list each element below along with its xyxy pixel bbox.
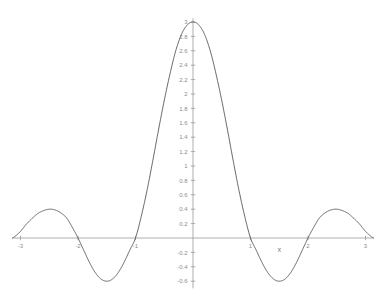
y-tick-label: 0.8	[179, 178, 188, 184]
x-tick-label: 3	[364, 243, 368, 249]
x-tick-label: -1	[133, 243, 139, 249]
y-tick-label: 0.2	[179, 221, 188, 227]
y-tick-label: 1.4	[179, 134, 188, 140]
x-tick-label: -3	[18, 243, 24, 249]
y-tick-label: -0.2	[177, 250, 188, 256]
y-tick-label: 0.6	[179, 192, 188, 198]
plot-figure: -0.6-0.4-0.20.20.40.60.811.21.41.61.822.…	[0, 0, 390, 306]
x-tick-label: 1	[249, 243, 253, 249]
y-tick-label: 2.6	[179, 48, 188, 54]
y-tick-label: 2	[184, 91, 188, 97]
y-tick-label: 1	[184, 163, 188, 169]
x-axis-label: x	[278, 246, 282, 253]
y-tick-label: -0.6	[177, 278, 188, 284]
plot-canvas: -0.6-0.4-0.20.20.40.60.811.21.41.61.822.…	[0, 0, 390, 306]
axes-group	[12, 18, 373, 288]
y-tick-label: 0.4	[179, 206, 188, 212]
y-tick-label: 1.2	[179, 149, 188, 155]
y-tick-label: 1.8	[179, 106, 188, 112]
y-tick-label: 1.6	[179, 120, 188, 126]
x-axis-title: x	[278, 246, 282, 253]
y-tick-label: 2.4	[179, 62, 188, 68]
y-axis-tick-labels: -0.6-0.4-0.20.20.40.60.811.21.41.61.822.…	[177, 19, 188, 284]
x-tick-label: 2	[306, 243, 310, 249]
y-tick-label: -0.4	[177, 264, 188, 270]
y-tick-label: 2.2	[179, 77, 188, 83]
